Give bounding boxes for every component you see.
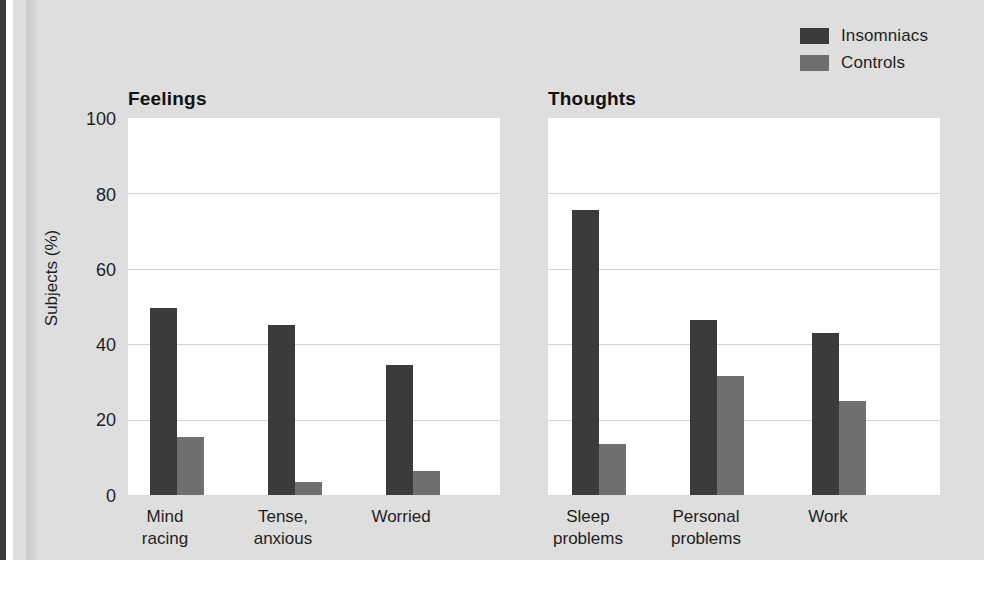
x-tick-work: Work [772,506,884,528]
legend-label-controls: Controls [841,53,905,73]
x-tick-mind-racing: Mind racing [110,506,220,550]
y-tick-80: 80 [48,186,116,204]
legend-swatch-controls [800,55,829,71]
x-tick-sleep-problems: Sleep problems [532,506,644,550]
legend-label-insomniacs: Insomniacs [841,26,928,46]
legend-swatch-insomniacs [800,28,829,44]
y-tick-60: 60 [48,261,116,279]
plot-area-thoughts [548,118,940,495]
y-tick-20: 20 [48,411,116,429]
plot-area-feelings [128,118,500,495]
legend-item-controls: Controls [800,49,980,76]
bar-controls-sleep-problems [599,444,626,495]
bar-insomniacs-work [812,333,839,495]
y-tick-100: 100 [48,110,116,128]
bar-insomniacs-worried [386,365,413,495]
y-tick-0: 0 [48,487,116,505]
bar-controls-worried [413,471,440,496]
x-tick-worried: Worried [346,506,456,528]
panel-title-thoughts: Thoughts [548,88,636,110]
figure-left-gap [6,0,13,560]
bar-controls-work [839,401,866,495]
chart-legend: Insomniacs Controls [800,22,980,76]
figure-bottom-margin [0,560,984,589]
chart-figure: Insomniacs Controls Subjects (%) 100 80 … [0,0,984,589]
bar-insomniacs-sleep-problems [572,210,599,495]
figure-panel-edge-shadow [26,0,38,560]
x-tick-personal-problems: Personal problems [650,506,762,550]
legend-item-insomniacs: Insomniacs [800,22,980,49]
panel-title-feelings: Feelings [128,88,207,110]
x-tick-tense-anxious: Tense, anxious [228,506,338,550]
bar-controls-personal-problems [717,376,744,495]
y-tick-40: 40 [48,336,116,354]
bar-insomniacs-tense-anxious [268,325,295,495]
bar-controls-tense-anxious [295,482,322,495]
bar-insomniacs-mind-racing [150,308,177,495]
bar-controls-mind-racing [177,437,204,495]
bar-insomniacs-personal-problems [690,320,717,495]
